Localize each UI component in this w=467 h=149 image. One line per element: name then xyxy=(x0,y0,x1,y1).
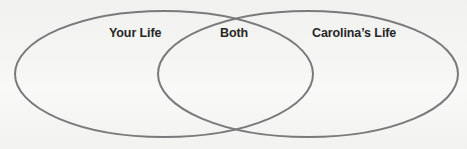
intersection-label: Both xyxy=(220,26,248,40)
right-set-ellipse xyxy=(158,11,458,137)
venn-diagram: Your Life Both Carolina’s Life xyxy=(0,0,467,149)
left-set-ellipse xyxy=(15,11,313,137)
right-set-label: Carolina’s Life xyxy=(312,26,396,40)
venn-ellipses xyxy=(0,0,467,149)
left-set-label: Your Life xyxy=(109,26,161,40)
